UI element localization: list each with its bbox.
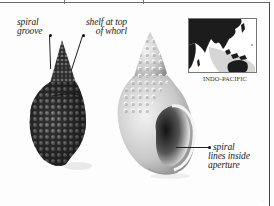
label-line: aperture bbox=[208, 161, 250, 170]
label-line: groove bbox=[17, 27, 42, 36]
indo-pacific-map-icon bbox=[189, 19, 256, 72]
leader-line-aperture bbox=[176, 147, 209, 148]
page-marker: · bbox=[262, 198, 263, 203]
border-tick bbox=[64, 0, 65, 4]
label-spiral-lines-inside-aperture: spiral lines inside aperture bbox=[208, 143, 250, 170]
label-line: of whorl bbox=[81, 27, 127, 36]
range-map bbox=[188, 18, 257, 73]
dark-shell-illustration bbox=[20, 38, 100, 173]
top-border-rule bbox=[0, 2, 270, 3]
map-caption: INDO-PACIFIC bbox=[203, 75, 247, 82]
label-shelf-at-top-of-whorl: shelf at top of whorl bbox=[81, 18, 127, 36]
border-tick bbox=[143, 0, 144, 4]
right-border-rule bbox=[269, 2, 270, 206]
label-spiral-groove: spiral groove bbox=[17, 18, 42, 36]
book-page: spiral groove shelf at top of whorl spir… bbox=[0, 0, 274, 206]
